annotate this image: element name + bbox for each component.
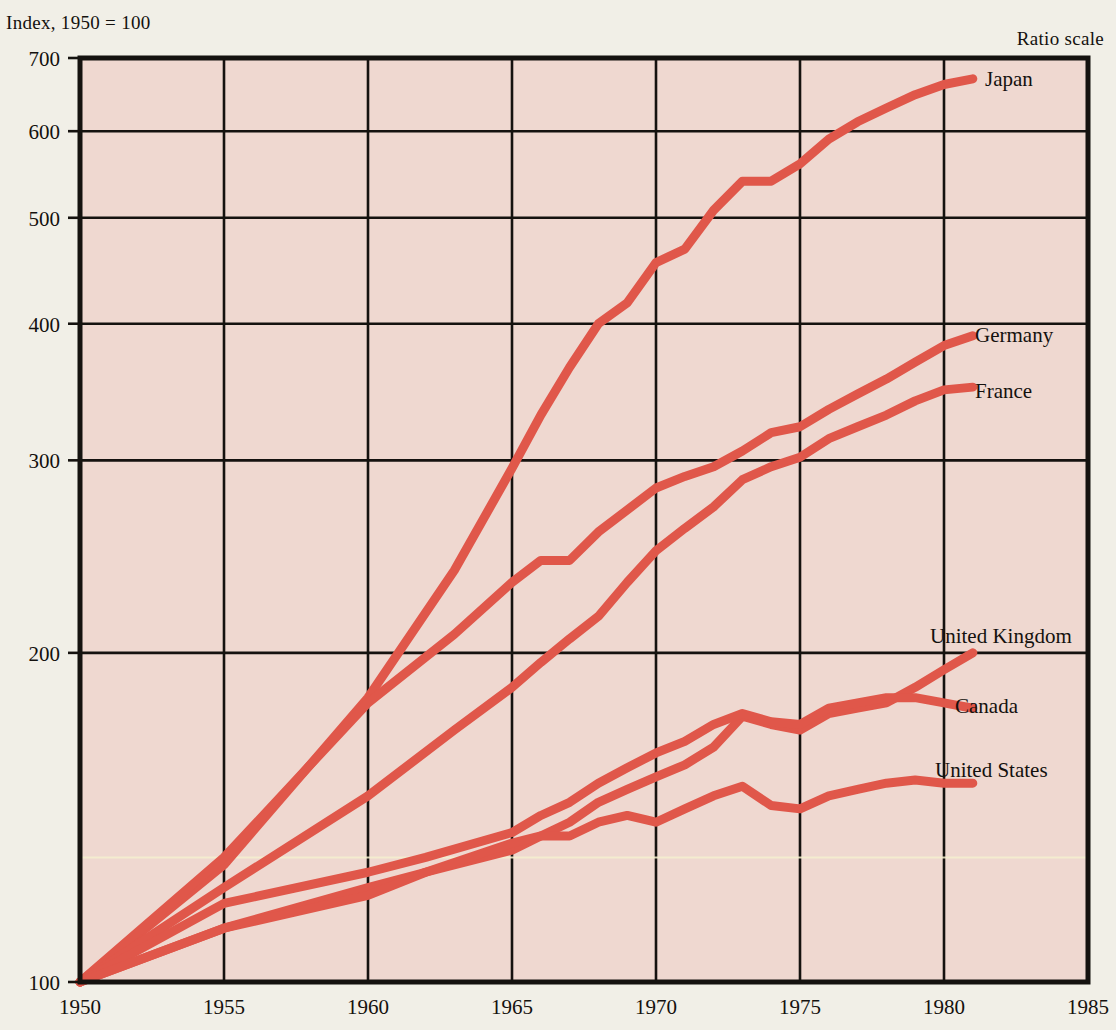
series-label-germany: Germany bbox=[975, 323, 1054, 347]
y-tick-label: 600 bbox=[29, 120, 61, 144]
x-tick-label: 1955 bbox=[203, 995, 245, 1019]
line-chart: 100200300400500600700 195019551960196519… bbox=[0, 0, 1116, 1030]
y-tick-label: 700 bbox=[29, 47, 61, 71]
y-tick-label: 200 bbox=[29, 642, 61, 666]
series-label-united-states: United States bbox=[935, 758, 1048, 782]
series-label-united-kingdom: United Kingdom bbox=[930, 624, 1072, 648]
y-axis-ticks: 100200300400500600700 bbox=[29, 47, 81, 995]
series-label-france: France bbox=[975, 379, 1032, 403]
x-tick-label: 1970 bbox=[635, 995, 677, 1019]
x-tick-label: 1965 bbox=[491, 995, 533, 1019]
y-tick-label: 500 bbox=[29, 207, 61, 231]
series-label-canada: Canada bbox=[955, 694, 1019, 718]
x-tick-label: 1980 bbox=[923, 995, 965, 1019]
series-label-japan: Japan bbox=[985, 67, 1033, 91]
x-axis-ticks: 19501955196019651970197519801985 bbox=[59, 995, 1109, 1019]
x-tick-label: 1950 bbox=[59, 995, 101, 1019]
x-tick-label: 1975 bbox=[779, 995, 821, 1019]
x-tick-label: 1960 bbox=[347, 995, 389, 1019]
y-tick-label: 300 bbox=[29, 449, 61, 473]
x-tick-label: 1985 bbox=[1067, 995, 1109, 1019]
chart-page: Index, 1950 = 100 Ratio scale 1002003004… bbox=[0, 0, 1116, 1030]
y-tick-label: 400 bbox=[29, 313, 61, 337]
y-tick-label: 100 bbox=[29, 971, 61, 995]
